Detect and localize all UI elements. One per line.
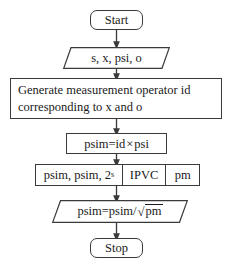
flowchart-diagram: Start s, x, psi, o Generate measurement …: [0, 0, 233, 272]
ipvc-output-cell: pm: [166, 165, 199, 185]
ipvc-name-cell: IPVC: [123, 165, 167, 185]
node-normalize: psim=psim/√pm: [52, 200, 188, 223]
node-inputs-label: s, x, psi, o: [91, 51, 142, 66]
node-inputs: s, x, psi, o: [63, 47, 170, 69]
node-stop-label: Stop: [105, 241, 128, 255]
node-generate-line-2: corresponding to x and o: [18, 99, 215, 116]
node-ipvc-call: psim, psim, 2s IPVC pm: [35, 164, 200, 186]
node-generate-line-1: Generate measurement operator id: [18, 82, 215, 99]
node-start-label: Start: [105, 13, 129, 27]
node-psim-rhs: psi: [134, 137, 149, 151]
node-psim-assignment: psim=id × psi: [66, 133, 167, 154]
square-root-icon: √pm: [137, 204, 163, 219]
normalize-expression-lhs: psim=psim/: [77, 204, 136, 219]
node-generate-operator: Generate measurement operator id corresp…: [10, 78, 222, 119]
ipvc-output-text: pm: [175, 168, 191, 183]
radical-glyph: √: [138, 205, 145, 220]
multiplication-icon: ×: [125, 137, 134, 151]
ipvc-name-text: IPVC: [130, 168, 158, 183]
ipvc-arguments-cell: psim, psim, 2s: [36, 165, 123, 185]
radicand-text: pm: [145, 204, 163, 218]
node-stop: Stop: [90, 238, 143, 258]
ipvc-arguments-text: psim, psim, 2: [44, 168, 111, 183]
node-start: Start: [90, 10, 143, 30]
node-psim-lhs: psim=id: [84, 137, 125, 151]
